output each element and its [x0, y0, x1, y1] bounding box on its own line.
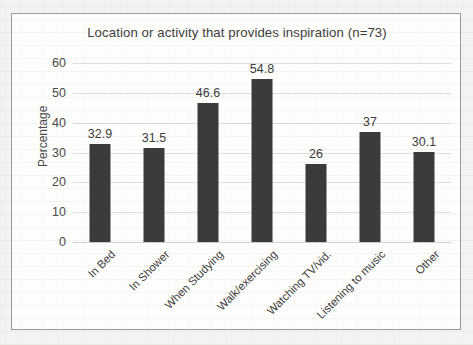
- y-axis-tick-label: 30: [52, 146, 66, 160]
- bar: [306, 164, 327, 242]
- bar-value-label: 54.8: [250, 62, 274, 76]
- y-axis-tick-label: 50: [52, 86, 66, 100]
- bar-value-label: 31.5: [142, 131, 166, 145]
- y-axis-tick-label: 20: [52, 175, 66, 189]
- bar-value-label: 30.1: [412, 135, 436, 149]
- x-axis-tick-label: In Bed: [86, 248, 118, 280]
- bar: [144, 148, 165, 242]
- x-axis-tick-label: In Shower: [127, 248, 172, 293]
- y-axis-tick-label: 40: [52, 116, 66, 130]
- bar: [90, 144, 111, 242]
- bar: [414, 152, 435, 242]
- y-axis-tick-label: 60: [52, 56, 66, 70]
- bar: [360, 132, 381, 242]
- y-axis-title: Percentage: [36, 106, 50, 167]
- bar-value-label: 26: [309, 147, 323, 161]
- bar: [252, 79, 273, 242]
- plot-area: 0102030405060 32.931.546.654.8263730.1 I…: [73, 63, 451, 242]
- chart-frame: Location or activity that provides inspi…: [11, 13, 461, 330]
- chart-title: Location or activity that provides inspi…: [12, 25, 462, 40]
- x-axis-tick-label: Other: [413, 248, 442, 277]
- y-axis-tick-label: 0: [59, 235, 66, 249]
- bar-value-label: 32.9: [88, 127, 112, 141]
- gridline: [73, 242, 451, 243]
- y-axis-tick-label: 10: [52, 205, 66, 219]
- bar-value-label: 46.6: [196, 86, 220, 100]
- bar: [198, 103, 219, 242]
- bar-value-label: 37: [363, 115, 377, 129]
